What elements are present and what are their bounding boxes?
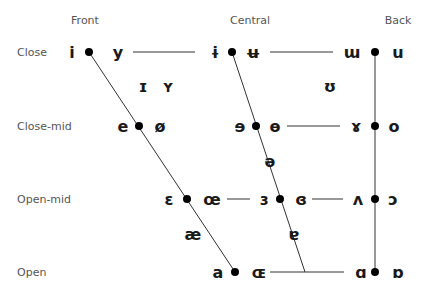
vowel-symbol: ɨ <box>211 43 220 62</box>
vowel-symbol: ʉ <box>246 43 261 62</box>
vowel-symbol: ɵ <box>270 117 281 136</box>
row-label-open: Open <box>17 266 46 279</box>
vowel-symbol: a <box>213 263 224 282</box>
vowel-symbol: ɶ <box>252 263 267 282</box>
row-label-open-mid: Open-mid <box>17 193 71 206</box>
vowel-symbol: ɒ <box>392 263 403 282</box>
vowel-dot <box>276 195 284 203</box>
vowel-dot <box>135 122 143 130</box>
vowel-symbol: ɯ <box>344 43 361 62</box>
vowel-symbol: o <box>389 117 400 136</box>
column-header-front: Front <box>71 14 100 27</box>
vowel-symbol: ɜ <box>260 190 269 209</box>
column-header-central: Central <box>230 14 270 27</box>
row-label-close-mid: Close-mid <box>17 120 72 133</box>
vowel-dot <box>231 268 239 276</box>
ipa-vowel-chart: FrontCentralBack CloseClose-midOpen-midO… <box>0 0 421 299</box>
vowel-dot <box>371 48 379 56</box>
vowel-symbol: ø <box>155 117 166 136</box>
vowel-symbol: e <box>118 117 129 136</box>
vowel-dot <box>228 48 236 56</box>
vowel-symbols: iyɨʉɯuɪʏʊeøɘɵɤoəɛœɜɞʌɔæɐaɶɑɒ <box>69 43 403 282</box>
vowel-dot <box>183 195 191 203</box>
vowel-symbol: ʏ <box>162 77 174 96</box>
vowel-symbol: ʊ <box>324 77 336 96</box>
vowel-symbol: œ <box>203 190 221 209</box>
vowel-dot <box>371 122 379 130</box>
vowel-dot <box>85 48 93 56</box>
vowel-dot <box>371 268 379 276</box>
vowel-symbol: y <box>113 43 124 62</box>
vowel-symbol: ɤ <box>351 117 361 136</box>
vowel-dot <box>252 122 260 130</box>
vowel-symbol: ɐ <box>289 225 300 244</box>
vowel-symbol: ə <box>265 152 276 171</box>
column-header-back: Back <box>385 14 412 27</box>
vowel-symbol: ɞ <box>295 190 307 209</box>
vowel-symbol: u <box>392 43 403 62</box>
vowel-dot <box>371 195 379 203</box>
vowel-symbol: æ <box>185 225 202 244</box>
vowel-symbol: ɪ <box>139 77 148 96</box>
vowel-symbol: ɔ <box>388 190 397 209</box>
vowel-symbol: i <box>69 43 74 62</box>
vowel-symbol: ɛ <box>165 190 174 209</box>
row-labels: CloseClose-midOpen-midOpen <box>17 46 72 279</box>
vowel-symbol: ɑ <box>355 263 366 282</box>
row-label-close: Close <box>17 46 47 59</box>
vowel-symbol: ʌ <box>353 190 364 209</box>
column-headers: FrontCentralBack <box>71 14 412 27</box>
vowel-symbol: ɘ <box>235 117 246 136</box>
